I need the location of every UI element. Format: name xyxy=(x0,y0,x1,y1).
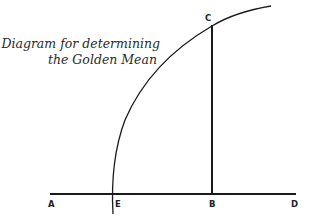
arc-ce xyxy=(113,6,272,214)
point-label-d: D xyxy=(291,199,298,209)
golden-mean-diagram: C A E B D xyxy=(0,0,317,223)
point-label-b: B xyxy=(209,199,215,209)
point-label-c: C xyxy=(205,13,211,23)
point-label-a: A xyxy=(48,199,55,209)
point-label-e: E xyxy=(115,199,121,209)
